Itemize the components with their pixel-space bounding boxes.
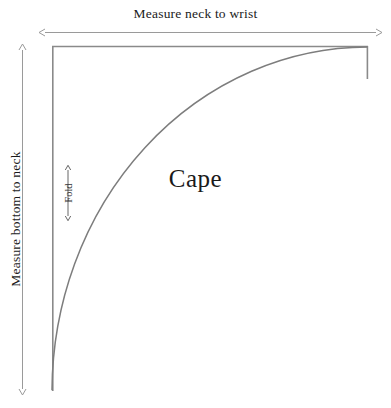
top-measurement-label: Measure neck to wrist	[0, 6, 391, 22]
cape-pattern-diagram: Measure neck to wrist Measure bottom to …	[0, 0, 391, 408]
diagram-canvas	[0, 0, 391, 408]
cape-hem-arc	[52, 47, 367, 390]
shape-name-label: Cape	[0, 165, 391, 193]
pattern-rectangle-outline	[52, 46, 368, 391]
left-measurement-label-wrap: Measure bottom to neck	[8, 45, 24, 393]
